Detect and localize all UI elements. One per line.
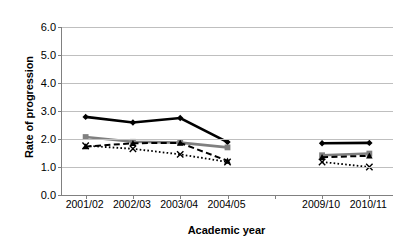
- gridline: [62, 167, 393, 168]
- y-tick-label: 2.0: [20, 133, 56, 145]
- y-axis-tick-labels: 0.01.02.03.04.05.06.0: [20, 0, 56, 251]
- chart-container: Rate of progression 0.01.02.03.04.05.06.…: [0, 0, 399, 251]
- gridline: [62, 55, 393, 56]
- series-series-2: [83, 134, 373, 158]
- data-point-x-marker: [130, 146, 136, 152]
- x-tick-label: 2010/11: [350, 198, 387, 210]
- gridline: [62, 83, 393, 84]
- y-tick-mark: [58, 55, 62, 56]
- series-line: [322, 154, 369, 156]
- data-point-diamond-marker: [366, 140, 372, 146]
- x-tick-label: 2002/03: [113, 198, 151, 210]
- y-tick-mark: [58, 83, 62, 84]
- data-point-square-marker: [225, 145, 231, 151]
- y-tick-label: 1.0: [20, 161, 56, 173]
- y-tick-label: 3.0: [20, 105, 56, 117]
- y-tick-label: 4.0: [20, 77, 56, 89]
- gridline: [62, 27, 393, 28]
- x-tick-label: 2009/10: [302, 198, 340, 210]
- y-tick-label: 5.0: [20, 49, 56, 61]
- y-tick-mark: [58, 167, 62, 168]
- x-axis-tick-labels: 2001/022002/032003/042004/052009/102010/…: [61, 198, 392, 216]
- y-tick-mark: [58, 195, 62, 196]
- x-axis-title: Academic year: [61, 224, 392, 236]
- data-point-diamond-marker: [82, 114, 88, 120]
- gridline: [62, 111, 393, 112]
- y-tick-mark: [58, 111, 62, 112]
- plot-area: [61, 27, 393, 196]
- y-tick-label: 6.0: [20, 21, 56, 33]
- y-tick-mark: [58, 27, 62, 28]
- x-tick-label: 2004/05: [208, 198, 246, 210]
- gridline: [62, 139, 393, 140]
- data-point-diamond-marker: [130, 119, 136, 125]
- x-tick-label: 2001/02: [66, 198, 104, 210]
- x-tick-label: 2003/04: [160, 198, 198, 210]
- y-tick-label: 0.0: [20, 189, 56, 201]
- y-tick-mark: [58, 139, 62, 140]
- data-point-diamond-marker: [319, 140, 325, 146]
